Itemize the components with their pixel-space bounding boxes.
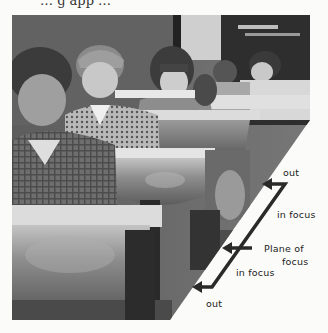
label-out-near: out — [206, 298, 222, 310]
label-out-far: out — [283, 167, 299, 179]
label-in-focus-near: in focus — [236, 267, 275, 279]
label-plane-of-focus-line1: Plane of — [264, 243, 304, 255]
label-plane-of-focus-line2: focus — [282, 256, 308, 268]
classroom-photo — [0, 0, 328, 333]
label-in-focus-far: in focus — [277, 209, 316, 221]
arrow-plane-of-focus-icon — [222, 242, 232, 254]
